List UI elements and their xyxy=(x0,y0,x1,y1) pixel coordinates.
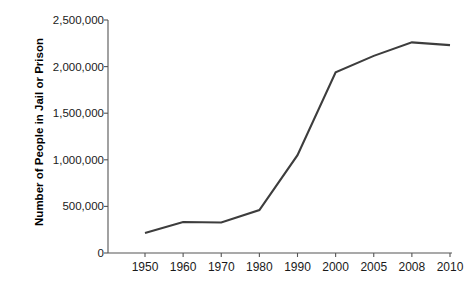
data-series-line xyxy=(145,42,450,233)
axis-lines xyxy=(108,20,452,253)
line-chart: Number of People in Jail or Prison 0500,… xyxy=(0,0,466,300)
plot-area xyxy=(0,0,466,300)
x-axis-tick-labels: 195019601970198019902000200520082010 xyxy=(0,258,466,282)
axis-tick-marks xyxy=(104,20,450,257)
x-tick-label: 2010 xyxy=(428,258,466,276)
